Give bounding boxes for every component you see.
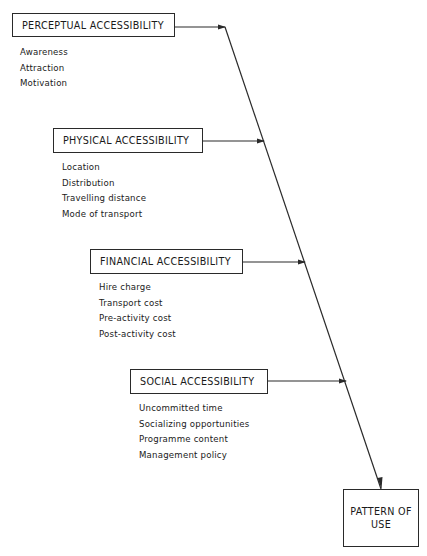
factor-items-social: Uncommitted time Socializing opportuniti…	[139, 401, 250, 463]
list-item: Motivation	[20, 76, 68, 92]
factor-box-financial: FINANCIAL ACCESSIBILITY	[90, 249, 243, 274]
factor-items-financial: Hire charge Transport cost Pre-activity …	[99, 280, 176, 342]
result-label-line1: PATTERN OF	[350, 505, 412, 518]
factor-label: FINANCIAL ACCESSIBILITY	[100, 256, 231, 267]
list-item: Hire charge	[99, 280, 176, 296]
list-item: Transport cost	[99, 296, 176, 312]
list-item: Programme content	[139, 432, 250, 448]
list-item: Location	[62, 160, 146, 176]
factor-items-perceptual: Awareness Attraction Motivation	[20, 45, 68, 92]
result-label-line2: USE	[350, 518, 412, 531]
list-item: Management policy	[139, 448, 250, 464]
factor-box-perceptual: PERCEPTUAL ACCESSIBILITY	[12, 13, 175, 37]
result-box-pattern-of-use: PATTERN OF USE	[343, 489, 419, 547]
factor-label: SOCIAL ACCESSIBILITY	[140, 376, 254, 387]
list-item: Awareness	[20, 45, 68, 61]
list-item: Socializing opportunities	[139, 417, 250, 433]
list-item: Mode of transport	[62, 207, 146, 223]
factor-label: PHYSICAL ACCESSIBILITY	[63, 135, 189, 146]
factor-items-physical: Location Distribution Travelling distanc…	[62, 160, 146, 222]
factor-label: PERCEPTUAL ACCESSIBILITY	[22, 20, 164, 31]
list-item: Attraction	[20, 61, 68, 77]
list-item: Travelling distance	[62, 191, 146, 207]
factor-box-physical: PHYSICAL ACCESSIBILITY	[53, 128, 203, 153]
list-item: Post-activity cost	[99, 327, 176, 343]
factor-box-social: SOCIAL ACCESSIBILITY	[130, 369, 268, 394]
list-item: Distribution	[62, 176, 146, 192]
list-item: Pre-activity cost	[99, 311, 176, 327]
list-item: Uncommitted time	[139, 401, 250, 417]
